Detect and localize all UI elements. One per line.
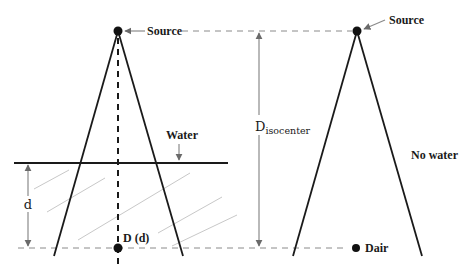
no-water-label: No water xyxy=(411,148,459,162)
d-isocenter-main: D xyxy=(255,119,265,134)
dose-depth-point xyxy=(114,244,123,253)
right-beam-edge-right xyxy=(357,31,422,256)
left-source-dot xyxy=(114,27,123,36)
dair-point xyxy=(352,244,360,252)
left-source-label: Source xyxy=(147,24,183,38)
right-beam-edge-left xyxy=(293,31,357,256)
d-isocenter-subscript: isocenter xyxy=(265,125,310,136)
right-source-arrow xyxy=(364,20,385,29)
hatch-line xyxy=(47,178,105,212)
hatch-line xyxy=(34,170,69,189)
dose-depth-label: D (d) xyxy=(123,231,149,245)
hatch-line xyxy=(78,173,190,240)
left-beam-edge-right xyxy=(118,31,183,256)
dair-label: Dair xyxy=(365,241,389,255)
water-label: Water xyxy=(166,128,199,142)
depth-label: d xyxy=(24,197,32,212)
dosimetry-diagram: d Disocenter Water Source Source D (d) D… xyxy=(0,0,467,275)
right-source-dot xyxy=(353,27,362,36)
right-source-label: Source xyxy=(389,13,425,27)
